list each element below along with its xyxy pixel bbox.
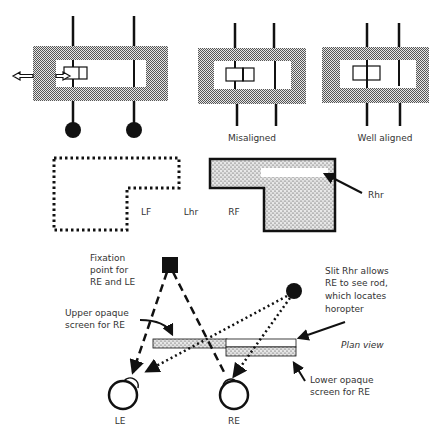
lower-screen-pointer-arrow [294, 363, 305, 381]
panel-3-well-aligned: Well aligned [322, 23, 429, 143]
upper-screen-label-line-2: screen for RE [65, 320, 125, 330]
fixation-label-line-2: point for [90, 265, 128, 275]
re-label: RE [228, 416, 240, 426]
rhr-slit [261, 168, 328, 177]
rf-label: RF [228, 207, 239, 217]
upper-opaque-screen [153, 339, 227, 348]
horopter-rod [286, 283, 302, 299]
slit-pointer-arrow [299, 322, 345, 338]
fixation-point-square [162, 257, 178, 273]
diagram-canvas: Misaligned Well aligned LF Lhr RF Rhr Fi… [0, 0, 448, 440]
le-fixation-line [133, 272, 167, 372]
left-field-outline [54, 158, 179, 230]
slit-label-line-2: RE to see rod, [325, 278, 388, 288]
lower-screen-label-line-1: Lower opaque [310, 375, 374, 385]
well-aligned-label: Well aligned [358, 133, 413, 143]
slit-label-line-3: which locates [325, 291, 387, 301]
lower-opaque-screen [226, 347, 296, 356]
right-eye-icon [220, 379, 248, 409]
slit-label-line-1: Slit Rhr allows [325, 266, 389, 276]
right-field-screen [210, 159, 335, 231]
le-label: LE [115, 416, 126, 426]
lower-screen-label-line-2: screen for RE [310, 387, 370, 397]
re-rod-sightline [234, 298, 290, 376]
lhr-label: Lhr [184, 207, 199, 217]
fixation-label-line-3: RE and LE [90, 277, 136, 287]
rod-base-right [126, 122, 142, 138]
upper-screen-pointer-arrow [140, 320, 172, 334]
rod-base-left [65, 122, 81, 138]
rhr-label: Rhr [368, 190, 384, 200]
left-eye-icon [109, 378, 138, 409]
misaligned-label: Misaligned [228, 133, 276, 143]
slit-label-line-4: horopter [325, 304, 364, 314]
fixation-label-line-1: Fixation [90, 253, 125, 263]
re-fixation-line [173, 272, 225, 374]
lf-label: LF [141, 207, 151, 217]
panel-1-alignment-adjustable [13, 16, 168, 138]
panel-2-misaligned: Misaligned [198, 23, 306, 143]
upper-screen-label-line-1: Upper opaque [65, 308, 129, 318]
plan-view-label: Plan view [341, 340, 384, 350]
